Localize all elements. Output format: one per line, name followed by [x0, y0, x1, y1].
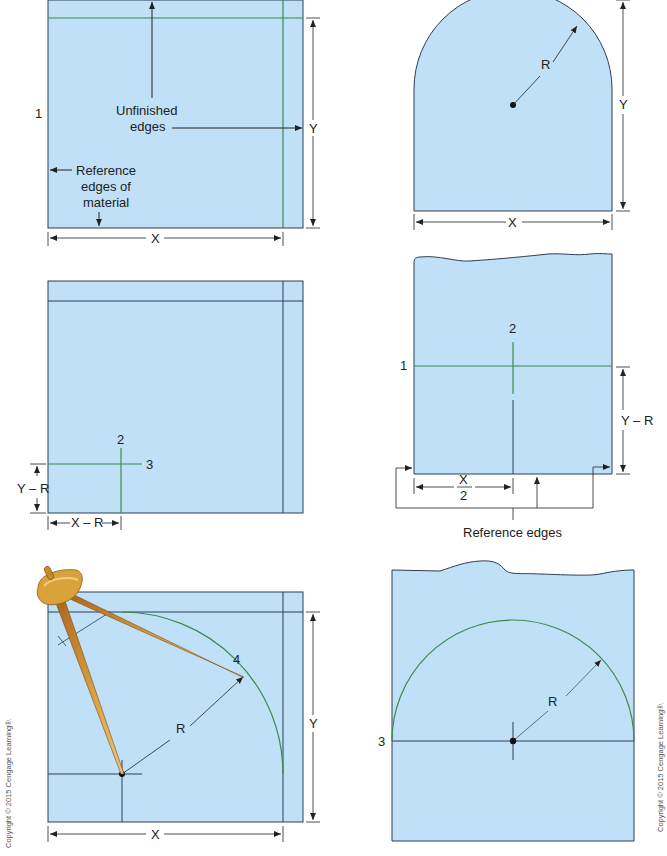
- dim-x-label: X: [151, 827, 160, 842]
- reference-edges-label: Reference edges: [463, 525, 563, 540]
- step-3-label: 3: [146, 457, 153, 472]
- copyright-right: Copyright © 2015 Cengage Learning®.: [656, 702, 665, 832]
- dim-x-denominator: 2: [460, 488, 467, 503]
- panel-compass-arc: 4 R X Y: [37, 565, 320, 842]
- material-label: material: [83, 195, 129, 210]
- panel-1-unfinished-material: 1 Unfinished edges Reference edges of ma…: [35, 0, 320, 246]
- layout-diagram: 1 Unfinished edges Reference edges of ma…: [0, 0, 667, 856]
- step-2-label: 2: [509, 321, 516, 336]
- dim-y-label: Y: [619, 97, 628, 112]
- panel-2-locate-center: 2 3 Y – R X – R: [17, 281, 303, 530]
- radius-label: R: [176, 721, 185, 736]
- radius-label: R: [541, 57, 550, 72]
- step-1-label: 1: [400, 358, 407, 373]
- dim-x-label: X: [508, 215, 517, 230]
- panel-arch-finished-part: R X Y: [414, 0, 630, 230]
- step-3-label: 3: [378, 734, 385, 749]
- dim-y-label: Y: [309, 121, 318, 136]
- dim-y-label: Y: [309, 716, 318, 731]
- dim-y-minus-r-label: Y – R: [621, 413, 653, 428]
- step-4-label: 4: [233, 652, 240, 667]
- copyright-left: Copyright © 2015 Cengage Learning®.: [4, 718, 13, 848]
- step-1-label: 1: [35, 106, 42, 121]
- dim-x-numerator: X: [459, 472, 468, 487]
- panel-centered-layout: 2 1 Y – R X 2 Reference edges: [396, 254, 653, 540]
- radius-label: R: [548, 694, 557, 709]
- reference-edges-of-label: edges of: [81, 179, 131, 194]
- dim-y-minus-r-label: Y – R: [17, 481, 49, 496]
- unfinished-label: Unfinished: [116, 103, 177, 118]
- panel-semicircle-arc: R 3: [378, 561, 634, 841]
- reference-label: Reference: [76, 163, 136, 178]
- dim-x-label: X: [151, 231, 160, 246]
- dim-x-minus-r-label: X – R: [71, 515, 104, 530]
- step-2-label: 2: [117, 432, 124, 447]
- unfinished-edges-label: edges: [130, 119, 166, 134]
